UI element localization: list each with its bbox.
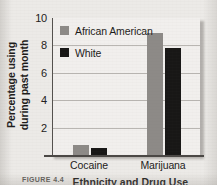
x-axis-tick-marijuana: Marijuana: [140, 159, 185, 171]
caption-title: Ethnicity and Drug Use: [73, 176, 189, 185]
legend: African American White: [60, 22, 153, 66]
y-axis-tick-4: 4: [41, 94, 47, 106]
y-axis-title: Percentage using during past month: [0, 12, 34, 157]
y-axis-tick-8: 8: [41, 39, 47, 51]
bar-cocaine-white: [91, 148, 107, 155]
legend-item-african-american: African American: [60, 22, 153, 39]
y-axis-tick-2: 2: [41, 122, 47, 134]
x-axis-line: [44, 155, 204, 157]
figure-number: FIGURE 4.4: [22, 176, 64, 183]
bar-marijuana-white: [165, 48, 181, 155]
y-axis-tick-labels: 108642: [30, 0, 50, 185]
y-axis-tick-10: 10: [35, 12, 47, 24]
x-axis-tick-labels: CocaineMarijuana: [52, 159, 200, 175]
figure-container: Percentage using during past month 10864…: [0, 0, 217, 185]
legend-item-white: White: [60, 44, 153, 61]
bar-cocaine-african-american: [73, 145, 89, 155]
legend-swatch-icon-african-american: [60, 26, 69, 35]
x-axis-tick-cocaine: Cocaine: [70, 159, 108, 171]
legend-label-white: White: [75, 47, 101, 59]
figure-caption: FIGURE 4.4 Ethnicity and Drug Use: [0, 176, 217, 185]
legend-label-african-american: African American: [75, 25, 153, 37]
y-axis-title-line2: during past month: [17, 39, 29, 129]
y-axis-title-line1: Percentage using: [5, 42, 17, 128]
y-axis-tick-6: 6: [41, 67, 47, 79]
legend-swatch-icon-white: [60, 48, 69, 57]
